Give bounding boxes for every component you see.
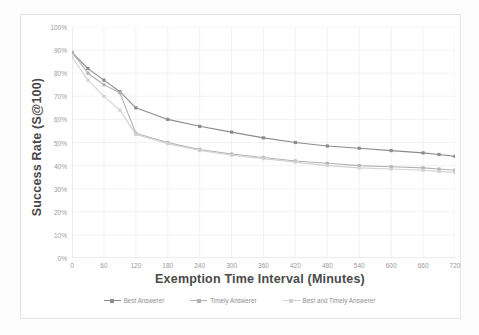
x-tick-label: 300: [226, 262, 237, 269]
x-tick-label: 0: [70, 262, 74, 269]
legend-item[interactable]: Best Answerer: [104, 297, 165, 304]
chart-legend: Best AnswererTimely AnswererBest and Tim…: [20, 297, 459, 304]
x-tick-label: 720: [450, 262, 461, 269]
y-tick-label: 70%: [54, 93, 67, 100]
y-axis-title: Success Rate (S@100): [30, 47, 44, 247]
x-tick-label: 420: [290, 262, 301, 269]
plot-area: 0%10%20%30%40%50%60%70%80%90%100% 060120…: [72, 27, 455, 258]
legend-label: Best and Timely Answerer: [303, 297, 376, 304]
y-tick-label: 60%: [54, 116, 67, 123]
x-tick-label: 180: [162, 262, 173, 269]
legend-marker-icon: [104, 297, 121, 304]
y-tick-label: 90%: [54, 47, 67, 54]
x-tick-label: 60: [100, 262, 107, 269]
x-tick-label: 540: [354, 262, 365, 269]
x-tick-label: 660: [418, 262, 429, 269]
y-tick-label: 20%: [54, 208, 67, 215]
legend-label: Timely Answerer: [210, 297, 256, 304]
legend-item[interactable]: Best and Timely Answerer: [283, 297, 376, 304]
y-tick-label: 30%: [54, 185, 67, 192]
legend-label: Best Answerer: [124, 297, 165, 304]
x-tick-label: 120: [130, 262, 141, 269]
y-tick-label: 40%: [54, 162, 67, 169]
x-tick-label: 240: [194, 262, 205, 269]
legend-item[interactable]: Timely Answerer: [190, 297, 256, 304]
y-tick-label: 100%: [50, 24, 67, 31]
x-tick-label: 480: [322, 262, 333, 269]
x-tick-label: 360: [258, 262, 269, 269]
y-tick-label: 80%: [54, 70, 67, 77]
y-tick-label: 50%: [54, 139, 67, 146]
x-tick-label: 600: [386, 262, 397, 269]
y-tick-label: 0%: [58, 255, 67, 262]
y-tick-label: 10%: [54, 231, 67, 238]
legend-marker-icon: [283, 297, 300, 304]
chart-svg: [72, 27, 455, 258]
gridlines: [72, 27, 455, 258]
chart-figure: Success Rate (S@100) Exemption Time Inte…: [0, 0, 479, 335]
legend-marker-icon: [190, 297, 207, 304]
x-axis-title: Exemption Time Interval (Minutes): [60, 272, 460, 286]
